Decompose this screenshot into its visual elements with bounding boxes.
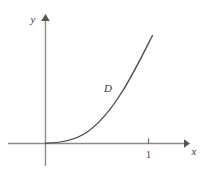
curve-annotation-d: D <box>103 82 112 94</box>
y-axis-label: y <box>30 13 36 25</box>
x-tick-label-1: 1 <box>146 149 151 160</box>
x-axis-label: x <box>191 145 197 157</box>
plot-background <box>0 0 205 179</box>
figure-container: y x 1 D <box>0 0 205 179</box>
coordinate-plot: y x 1 D <box>0 0 205 179</box>
